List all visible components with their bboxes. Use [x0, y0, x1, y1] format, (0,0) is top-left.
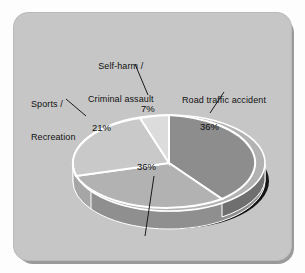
slice-value-road-traffic-accident: 36%	[200, 121, 219, 132]
slice-label-road-traffic-accident: Road traffic accident	[182, 73, 266, 128]
slice-label-domestic-industrial: Domestic / Industrial	[92, 241, 176, 261]
slice-label-sports-recreation: Sports / Recreation	[31, 77, 76, 165]
screenshot-root: Self-harm / Criminal assault Sports / Re…	[0, 0, 305, 273]
slice-label-line-1: Self-harm /	[88, 61, 154, 72]
slice-label-line-1: Sports /	[31, 99, 76, 110]
slice-value-self-harm-criminal-assault: 7%	[141, 103, 155, 114]
slice-label-line-1: Road traffic accident	[182, 95, 266, 106]
chart-panel: Self-harm / Criminal assault Sports / Re…	[13, 12, 292, 261]
slice-value-sports-recreation: 21%	[92, 122, 111, 133]
slice-value-domestic-industrial: 36%	[137, 161, 156, 172]
slice-label-line-2: Recreation	[31, 132, 76, 143]
